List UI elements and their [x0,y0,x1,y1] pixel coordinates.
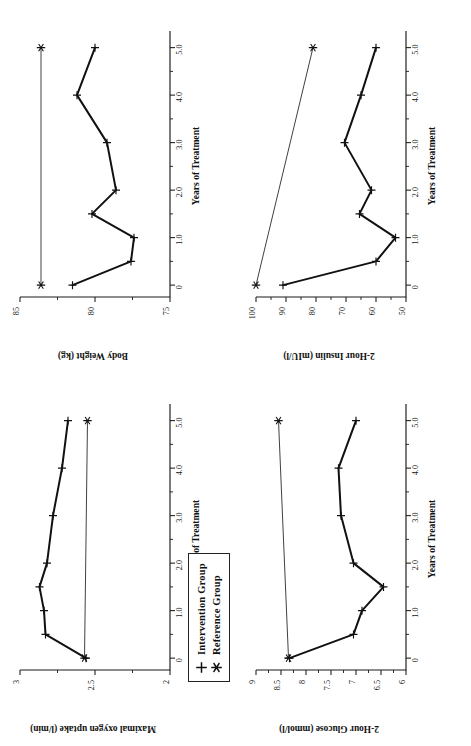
asterisk-marker [252,282,260,289]
x-tick-label: 0 [175,645,184,675]
axis-spines [256,404,406,670]
plus-marker [58,464,66,472]
series-line-reference [279,421,289,659]
y-tick-label: 100 [248,307,257,339]
y-axis-title: Maximal oxygen uptake (l/min) [18,724,168,734]
asterisk-marker-icon [210,661,223,674]
x-tick-label: 2.0 [175,177,184,207]
x-tick-label: 5.0 [175,35,184,65]
series-line-reference [85,421,88,659]
figure-page: · · · · · 22.5301.02.03.04.05.0Maximal o… [0,0,471,746]
y-axis-title: 2-Hour Glucose (mmol/l) [254,724,404,734]
rotated-figure-container: 22.5301.02.03.04.05.0Maximal oxygen upta… [0,0,471,746]
x-tick-label: 1.0 [411,225,420,255]
plus-marker [49,512,57,520]
plot-area-weight: 75808501.02.03.04.05.0Body Weight (kg)Ye… [18,33,168,299]
x-tick-label: 5.0 [411,408,420,438]
plus-marker [64,417,72,425]
y-axis-title: Body Weight (kg) [18,351,168,361]
chart-vo2 [18,402,172,672]
y-tick-label: 6 [398,680,407,712]
x-tick-label: 4.0 [411,82,420,112]
plus-marker [130,234,138,242]
y-tick-label: 7.5 [323,680,332,712]
plus-marker [69,281,77,289]
x-tick-label: 3.0 [411,130,420,160]
x-tick-label: 2.0 [411,550,420,580]
plus-marker [341,139,349,147]
plus-marker [368,186,376,194]
chart-weight [18,29,172,299]
y-tick-label: 85 [12,307,21,339]
y-tick-label: 50 [398,307,407,339]
plus-marker [357,91,365,99]
plus-marker [352,417,360,425]
panel-2hour-glucose: 66.577.588.5901.02.03.04.05.02-Hour Gluc… [236,373,471,746]
x-tick-label: 5.0 [175,408,184,438]
y-tick-label: 9 [248,680,257,712]
x-tick-label: 1.0 [411,598,420,628]
plot-area-insulin: 506070809010001.02.03.04.05.02-Hour Insu… [254,33,404,299]
y-tick-label: 70 [338,307,347,339]
y-tick-label: 6.5 [373,680,382,712]
series-line-reference [256,48,313,286]
plus-marker [36,583,44,591]
x-axis-title: Years of Treatment [190,33,201,299]
y-tick-label: 80 [87,307,96,339]
y-tick-label: 8.5 [273,680,282,712]
plot-area-vo2: 22.5301.02.03.04.05.0Maximal oxygen upta… [18,406,168,672]
plot-area-glucose: 66.577.588.5901.02.03.04.05.02-Hour Gluc… [254,406,404,672]
plus-marker [350,630,358,638]
series-line-intervention [290,421,384,659]
legend-item-intervention: Intervention Group [194,563,209,674]
series-line-intervention [73,48,135,286]
axis-spines [256,31,406,297]
x-tick-label: 1.0 [175,598,184,628]
plus-marker [91,44,99,52]
x-tick-label: 1.0 [175,225,184,255]
plus-marker [372,44,380,52]
legend-label-intervention: Intervention Group [196,563,207,655]
y-tick-label: 60 [368,307,377,339]
x-axis-title: Years of Treatment [426,33,437,299]
plus-marker [43,559,51,567]
axis-spines [20,404,170,670]
x-tick-label: 4.0 [175,82,184,112]
panel-body-weight: 75808501.02.03.04.05.0Body Weight (kg)Ye… [0,0,235,373]
y-tick-label: 2.5 [87,680,96,712]
plus-marker-icon [195,661,208,674]
axis-spines [20,31,170,297]
series-legend: Intervention Group Reference Group [188,553,230,682]
x-tick-label: 3.0 [175,130,184,160]
y-tick-label: 75 [162,307,171,339]
asterisk-marker [309,44,317,51]
x-tick-label: 3.0 [411,503,420,533]
legend-label-reference: Reference Group [211,575,222,655]
x-tick-label: 5.0 [411,35,420,65]
plus-marker [42,630,50,638]
plus-marker [127,257,135,265]
legend-item-reference: Reference Group [209,563,224,674]
y-tick-label: 80 [308,307,317,339]
series-line-intervention [283,48,396,286]
y-tick-label: 3 [12,680,21,712]
x-tick-label: 2.0 [175,550,184,580]
chart-insulin [254,29,408,299]
series-line-intervention [40,421,87,659]
x-tick-label: 4.0 [175,455,184,485]
y-tick-label: 90 [278,307,287,339]
x-tick-label: 2.0 [411,177,420,207]
y-axis-title: 2-Hour Insulin (mIU/l) [254,351,404,361]
y-tick-label: 8 [298,680,307,712]
panel-2hour-insulin: 506070809010001.02.03.04.05.02-Hour Insu… [236,0,471,373]
plus-marker [40,607,48,615]
y-tick-label: 2 [162,680,171,712]
x-tick-label: 0 [411,272,420,302]
plus-marker [279,281,287,289]
y-tick-label: 7 [348,680,357,712]
plus-marker [335,464,343,472]
x-tick-label: 0 [411,645,420,675]
x-tick-label: 0 [175,272,184,302]
x-tick-label: 3.0 [175,503,184,533]
chart-glucose [254,402,408,672]
